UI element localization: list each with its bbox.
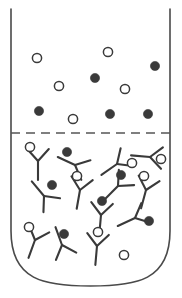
bound-open-circle-marker [127, 158, 136, 167]
antibody-symbol [27, 149, 49, 180]
antibody-symbol [24, 175, 60, 213]
antibody-right-arm [52, 245, 66, 260]
open-circle-marker-6 [120, 84, 129, 93]
bound-filled-circle-marker [144, 216, 153, 225]
antibody-right-arm [38, 149, 49, 161]
open-circle-marker-5 [54, 81, 63, 90]
antibody-left-arm [44, 189, 60, 205]
antibody-left-arm [62, 241, 76, 256]
open-circle-marker-1 [32, 53, 41, 62]
bound-open-circle-marker [93, 227, 102, 236]
bound-open-circle-marker [156, 154, 165, 163]
bound-filled-circle-marker [97, 196, 106, 205]
filled-circle-marker-4 [90, 73, 99, 82]
antibody-right-arm [146, 178, 160, 192]
bound-open-circle-marker [25, 142, 34, 151]
antibody-left-arm [111, 148, 127, 164]
filled-circle-marker-10 [143, 109, 152, 118]
antibody-stem [141, 190, 146, 208]
lower-zone-antibodies [18, 142, 165, 265]
lower-zone-free-markers [119, 250, 128, 259]
figure-container: Immunoassay reaction tube Vessel with fl… [0, 0, 182, 298]
antibody-left-arm [130, 203, 145, 218]
filled-circle-marker-3 [150, 61, 159, 70]
bound-filled-circle-marker [59, 229, 68, 238]
bound-filled-circle-marker [47, 180, 56, 189]
immunoassay-tube-diagram: Immunoassay reaction tube Vessel with fl… [0, 0, 182, 298]
open-circle-marker-lower-1 [119, 250, 128, 259]
antibody-symbol [95, 148, 133, 183]
open-circle-marker-2 [103, 47, 112, 56]
antibody-stem [118, 218, 135, 226]
antibody-symbol [18, 225, 49, 262]
antibody-symbol [85, 233, 109, 266]
antibody-stem [105, 186, 118, 199]
antibody-stem [77, 190, 80, 209]
antibody-stem [32, 181, 44, 196]
bound-open-circle-marker [72, 171, 81, 180]
antibody-right-arm [35, 229, 49, 244]
bound-filled-circle-marker [116, 170, 125, 179]
antibody-stem [58, 157, 75, 165]
antibody-stem [131, 155, 150, 157]
filled-circle-marker-7 [34, 106, 43, 115]
antibody-symbol [45, 223, 76, 260]
antibody-symbol [66, 176, 93, 210]
open-circle-marker-8 [68, 114, 77, 123]
upper-zone-markers [32, 47, 159, 123]
antibody-right-arm [118, 178, 134, 194]
antibody-stem [101, 164, 117, 175]
antibody-stem [29, 240, 35, 258]
antibody-stem [95, 246, 97, 265]
bound-filled-circle-marker [62, 147, 71, 156]
bound-open-circle-marker [139, 171, 148, 180]
antibody-right-arm [36, 196, 52, 212]
filled-circle-marker-9 [105, 109, 114, 118]
bound-open-circle-marker [24, 222, 33, 231]
